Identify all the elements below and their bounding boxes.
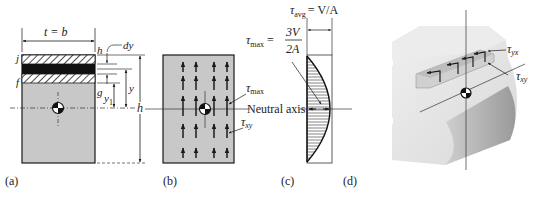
label-h-top: h [97, 44, 103, 56]
label-tau-avg: τavg= V/A [290, 3, 338, 19]
label-tau-max-b: τmax [246, 81, 264, 96]
centroid-icon [461, 88, 471, 98]
label-dy: dy [123, 39, 134, 51]
label-tau-xy-b: τxy [241, 115, 253, 130]
width-label: t = b [44, 25, 67, 39]
label-f: f [16, 76, 21, 88]
caption-d: (d) [343, 174, 357, 188]
label-g: g [97, 86, 103, 98]
fraction-numerator: 3V [285, 25, 301, 39]
centroid-icon [53, 103, 64, 114]
caption-a: (a) [5, 174, 18, 188]
hatched-strip-top [22, 55, 95, 64]
shear-stress-diagram: t = b j f h g dy y y1 [0, 0, 542, 200]
label-tau-xy-d: τxy [516, 69, 528, 84]
label-y1: y1 [103, 92, 113, 107]
panel-d: τyx τxy (d) [343, 10, 528, 188]
element-strip-dy [22, 64, 95, 74]
label-y: y [128, 82, 134, 94]
label-tau-max-c: τmax= [246, 33, 274, 49]
centroid-icon [200, 104, 211, 115]
label-j: j [14, 52, 19, 64]
caption-c: (c) [281, 174, 294, 188]
panel-a: t = b j f h g dy y y1 [5, 25, 146, 188]
label-h: h [137, 101, 143, 115]
fraction-denominator: 2A [286, 42, 300, 56]
caption-b: (b) [163, 174, 177, 188]
hatched-strip-bottom [22, 74, 95, 83]
label-tau-yx: τyx [507, 42, 519, 57]
neutral-axis-label: Neutral axis [247, 102, 306, 116]
panel-b: τmax Neutral axis τxy (b) [145, 55, 306, 188]
